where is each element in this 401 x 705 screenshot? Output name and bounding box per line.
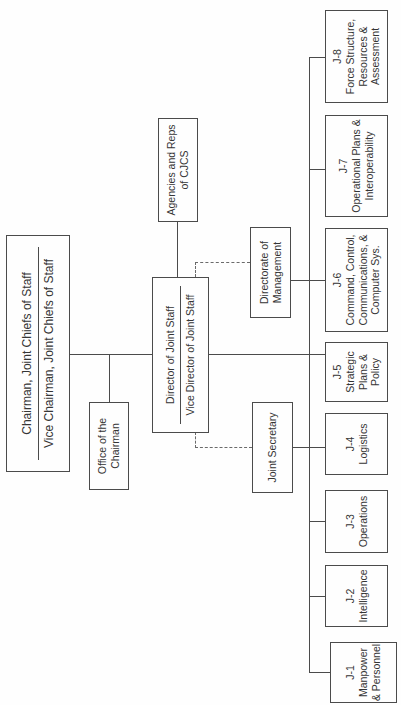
dirmgmt-line1: Directorate of (258, 241, 271, 304)
org-box-j5: J-5 Strategic Plans & Policy (325, 342, 388, 402)
box-divider (180, 286, 181, 424)
j7-code: J-7 (337, 159, 350, 174)
j2-line2: Intelligence (357, 569, 370, 622)
j1-code: J-1 (344, 665, 357, 680)
j4-code: J-4 (344, 437, 357, 452)
connector-dashed-director-jointsec-v (195, 447, 252, 448)
j1-line3: & Personnel (370, 644, 383, 701)
j8-code: J-8 (331, 49, 344, 64)
j5-line4: Policy (369, 358, 382, 386)
connector-rail-j2 (309, 596, 325, 597)
connector-rail-j3 (309, 521, 325, 522)
connector-rail-j1 (309, 672, 330, 673)
j8-line2: Force Structure, (344, 19, 357, 94)
org-box-joint-secretary: Joint Secretary (252, 402, 293, 493)
connector-office-stub (109, 355, 110, 402)
connector-dashed-director-dirmgmt-v (195, 262, 250, 263)
agencies-line2: of CJCS (178, 150, 191, 189)
j6-line3: Communications, & (357, 234, 370, 325)
org-box-office-of-chairman: Office of the Chairman (89, 402, 129, 490)
org-box-j2: J-2 Intelligence (325, 565, 388, 627)
j3-code: J-3 (344, 514, 357, 529)
j7-line3: Interoperability (363, 132, 376, 201)
office-line2: Chairman (109, 423, 122, 469)
org-box-j4: J-4 Logistics (325, 413, 388, 475)
org-box-j6: J-6 Command, Control, Communications, & … (325, 228, 388, 332)
j3-line2: Operations (357, 496, 370, 547)
j8-line3: Resources & (357, 26, 370, 86)
j1-line2: Manpower (357, 648, 370, 697)
org-box-j1: J-1 Manpower & Personnel (330, 642, 397, 703)
j6-line2: Command, Control, (344, 234, 357, 325)
j8-line4: Assessment (369, 28, 382, 85)
chairman-title: Chairman, Joint Chiefs of Staff (20, 272, 35, 435)
org-box-j8: J-8 Force Structure, Resources & Assessm… (325, 10, 388, 103)
j6-code: J-6 (331, 273, 344, 288)
director-title: Director of Joint Staff (164, 306, 177, 404)
connector-director-rail (209, 354, 325, 355)
org-box-chairman: Chairman, Joint Chiefs of Staff Vice Cha… (6, 235, 70, 472)
org-chart-rotated-stage: Chairman, Joint Chiefs of Staff Vice Cha… (0, 0, 401, 705)
connector-dirmgmt-j6 (291, 280, 325, 281)
j6-line4: Computer Sys. (369, 245, 382, 314)
j5-code: J-5 (331, 365, 344, 380)
org-box-director: Director of Joint Staff Vice Director of… (152, 277, 209, 433)
j5-line3: Plans & (357, 354, 370, 390)
org-box-agencies: Agencies and Reps of CJCS (158, 118, 198, 222)
org-box-j7: J-7 Operational Plans & Interoperability (325, 115, 388, 217)
j4-line2: Logistics (357, 424, 370, 465)
org-box-directorate-of-management: Directorate of Management (250, 227, 291, 318)
connector-chairman-director (70, 354, 152, 355)
connector-rail-j8 (309, 57, 325, 58)
dirmgmt-line2: Management (271, 242, 284, 303)
vice-director-title: Vice Director of Joint Staff (184, 295, 197, 416)
connector-dashed-director-jointsec-h (195, 432, 196, 448)
j7-line2: Operational Plans & (350, 119, 363, 212)
connector-director-agencies (177, 222, 178, 277)
agencies-line1: Agencies and Reps (165, 124, 178, 215)
org-box-j3: J-3 Operations (325, 490, 388, 553)
j2-code: J-2 (344, 589, 357, 604)
vice-chairman-title: Vice Chairman, Joint Chiefs of Staff (42, 259, 57, 448)
org-chart-page: Chairman, Joint Chiefs of Staff Vice Cha… (0, 0, 401, 705)
connector-j-row-rail (309, 58, 310, 673)
jointsec-line1: Joint Secretary (266, 412, 279, 482)
j5-line2: Strategic (344, 351, 357, 392)
box-divider (38, 248, 39, 460)
connector-jointsec-j4 (293, 447, 325, 448)
connector-dashed-director-dirmgmt-h (195, 262, 196, 277)
office-line1: Office of the (96, 418, 109, 474)
connector-rail-j7 (309, 169, 325, 170)
